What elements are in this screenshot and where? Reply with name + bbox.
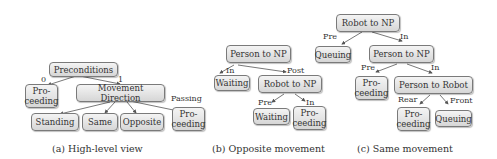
node-movement-direction: Movement Direction bbox=[76, 84, 165, 102]
node-same: Same bbox=[82, 113, 118, 131]
edge-label-in: In bbox=[226, 66, 234, 75]
node-person-to-np: Person to NP bbox=[226, 45, 291, 63]
node-proceeding: Pro- ceeding bbox=[25, 84, 58, 108]
node-proceeding-passing: Pro- ceeding bbox=[172, 107, 205, 131]
caption-b: (b) Opposite movement bbox=[212, 143, 325, 154]
node-preconditions: Preconditions bbox=[49, 62, 118, 77]
edge-label-front: Front bbox=[450, 96, 473, 105]
node-queuing: Queuing bbox=[315, 46, 351, 63]
edge-label-0: 0 bbox=[41, 75, 46, 84]
node-person-to-robot: Person to Robot bbox=[394, 76, 473, 94]
node-queuing-2: Queuing bbox=[435, 110, 472, 127]
edge-label-post: Post bbox=[287, 66, 304, 75]
edge-label-rear: Rear bbox=[398, 95, 417, 104]
edge-label-in-2: In bbox=[431, 63, 439, 72]
node-proceeding: Pro- ceeding bbox=[355, 76, 388, 100]
node-standing: Standing bbox=[31, 113, 79, 131]
edge-label-pre-2: Pre bbox=[361, 63, 375, 72]
edge-label-in: In bbox=[400, 32, 408, 41]
node-proceeding-2: Pro- ceeding bbox=[397, 107, 430, 131]
edge-label-pre: Pre bbox=[258, 98, 272, 107]
node-person-to-np: Person to NP bbox=[369, 45, 434, 63]
node-opposite: Opposite bbox=[120, 113, 164, 131]
caption-a: (a) High-level view bbox=[52, 143, 143, 154]
node-proceeding: Pro- ceeding bbox=[293, 106, 326, 130]
caption-c: (c) Same movement bbox=[357, 143, 453, 154]
node-waiting-2: Waiting bbox=[253, 108, 290, 125]
edge-label-passing: Passing bbox=[171, 94, 202, 103]
node-waiting: Waiting bbox=[214, 75, 250, 91]
node-robot-to-np: Robot to NP bbox=[258, 75, 322, 93]
edge-label-pre: Pre bbox=[323, 32, 337, 41]
node-robot-to-np: Robot to NP bbox=[336, 14, 400, 32]
